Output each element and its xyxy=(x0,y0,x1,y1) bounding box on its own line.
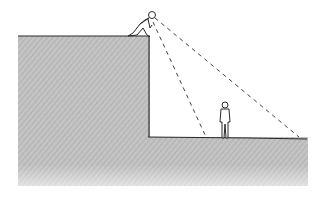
cliff-sightline-illustration xyxy=(0,0,323,197)
observer-figure xyxy=(128,12,156,38)
